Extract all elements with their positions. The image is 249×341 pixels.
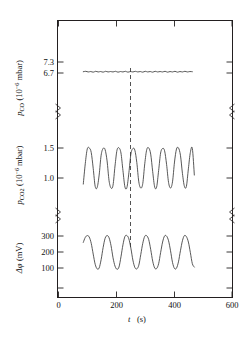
svg-text:Δφ(mV): Δφ(mV) bbox=[14, 243, 24, 275]
trace-p-co2 bbox=[83, 147, 194, 189]
x-tick-label-600: 600 bbox=[226, 300, 239, 310]
y-axis-co-unit-exp: −6 bbox=[13, 83, 20, 90]
x-tick-label-200: 200 bbox=[110, 300, 123, 310]
svg-text:pCO(10−6 mbar): pCO(10−6 mbar) bbox=[13, 60, 25, 117]
trace-delta-phi bbox=[83, 235, 194, 269]
x-tick-label-400: 400 bbox=[168, 300, 181, 310]
y-axis-co2-subscript2: 2 bbox=[18, 188, 25, 191]
y-tick-label-dphi-200: 200 bbox=[41, 247, 54, 257]
y-tick-label-co-67: 6.7 bbox=[43, 68, 54, 78]
y-axis-title-co: pCO(10−6 mbar) bbox=[13, 60, 25, 117]
y-axis-ticks-co-left bbox=[58, 62, 64, 73]
y-axis-co2-unit-pre: (10 bbox=[14, 175, 24, 186]
y-axis-ticks-dphi-left bbox=[58, 236, 64, 288]
x-axis-title: t (s) bbox=[128, 308, 146, 325]
y-axis-co2-unit-exp: −6 bbox=[13, 168, 20, 175]
y-axis-co-unit-post: mbar) bbox=[14, 60, 24, 83]
x-axis-symbol: t bbox=[128, 314, 131, 324]
trace-p-co bbox=[83, 71, 192, 72]
y-axis-dphi-symbol: Δφ bbox=[14, 263, 24, 274]
oscillation-figure: 0 200 400 600 t (s) 7.3 6.7 bbox=[0, 0, 249, 341]
svg-text:pCO2(10−6 mbar): pCO2(10−6 mbar) bbox=[13, 145, 25, 205]
y-tick-label-co2-15: 1.5 bbox=[43, 143, 54, 153]
y-axis-co2-unit-post: mbar) bbox=[14, 145, 24, 168]
y-tick-label-co-73: 7.3 bbox=[43, 57, 54, 67]
y-axis-title-dphi: Δφ(mV) bbox=[14, 243, 24, 275]
x-axis-ticks-top bbox=[59, 21, 233, 27]
y-axis-co-unit-pre: (10 bbox=[14, 89, 24, 100]
y-axis-ticks-co2-right bbox=[227, 148, 233, 178]
y-tick-label-dphi-100: 100 bbox=[41, 263, 54, 273]
x-axis-unit: (s) bbox=[137, 314, 146, 324]
y-axis-ticks-dphi-right bbox=[227, 236, 233, 288]
y-axis-co-subscript: CO bbox=[18, 102, 25, 111]
x-axis-ticks-bottom bbox=[59, 292, 233, 298]
x-tick-label-0: 0 bbox=[56, 300, 60, 310]
y-axis-ticks-co2-left bbox=[58, 148, 64, 178]
y-axis-ticks-co-right bbox=[227, 62, 233, 73]
svg-text:t (s): t (s) bbox=[128, 308, 146, 325]
y-tick-label-co2-10: 1.0 bbox=[43, 173, 54, 183]
chart-canvas: 0 200 400 600 t (s) 7.3 6.7 bbox=[0, 0, 249, 341]
y-tick-label-dphi-300: 300 bbox=[41, 231, 54, 241]
y-axis-title-co2: pCO2(10−6 mbar) bbox=[13, 145, 25, 205]
y-axis-dphi-unit: (mV) bbox=[14, 243, 24, 262]
